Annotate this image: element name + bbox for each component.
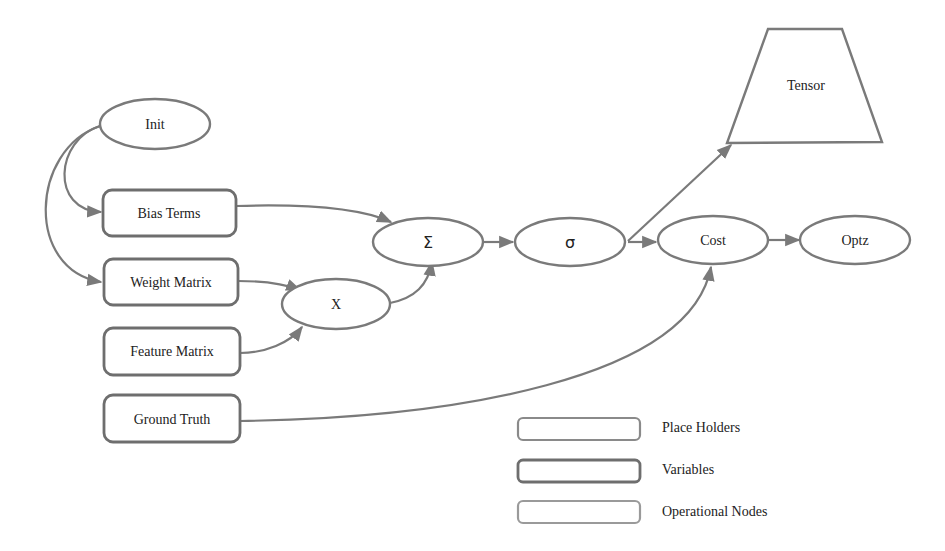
- node-sigmoid-label: σ: [565, 233, 575, 252]
- edge-weight-matrix-to-multiply: [238, 281, 300, 290]
- legend-swatch-placeholders: [518, 418, 640, 440]
- node-bias-terms-label: Bias Terms: [138, 206, 201, 221]
- edge-init-to-bias-terms: [64, 126, 101, 212]
- node-sum[interactable]: Σ: [373, 218, 483, 266]
- computation-graph-diagram: Init Bias Terms Weight Matrix Feature Ma…: [0, 0, 945, 551]
- node-weight-matrix-label: Weight Matrix: [130, 275, 212, 290]
- node-multiply[interactable]: X: [282, 279, 390, 329]
- node-feature-matrix-label: Feature Matrix: [130, 344, 214, 359]
- legend: Place Holders Variables Operational Node…: [518, 418, 767, 523]
- node-ground-truth[interactable]: Ground Truth: [104, 395, 240, 442]
- legend-label-operational-nodes: Operational Nodes: [662, 504, 767, 519]
- node-multiply-label: X: [331, 297, 341, 312]
- legend-swatch-operational-nodes: [518, 501, 640, 523]
- node-ground-truth-label: Ground Truth: [134, 412, 211, 427]
- legend-item-variables: Variables: [518, 460, 714, 482]
- node-optz[interactable]: Optz: [800, 216, 910, 264]
- node-cost[interactable]: Cost: [658, 216, 768, 264]
- node-init-label: Init: [145, 117, 165, 132]
- node-sum-label: Σ: [423, 233, 433, 252]
- legend-label-placeholders: Place Holders: [662, 420, 740, 435]
- node-cost-label: Cost: [700, 233, 726, 248]
- node-feature-matrix[interactable]: Feature Matrix: [104, 328, 240, 375]
- legend-item-placeholders: Place Holders: [518, 418, 740, 440]
- legend-label-variables: Variables: [662, 462, 714, 477]
- node-sigmoid[interactable]: σ: [515, 218, 625, 266]
- node-init[interactable]: Init: [100, 99, 210, 149]
- node-optz-label: Optz: [841, 233, 868, 248]
- node-tensor-label: Tensor: [787, 78, 825, 93]
- edge-bias-terms-to-sum: [236, 206, 391, 222]
- legend-item-operational-nodes: Operational Nodes: [518, 501, 767, 523]
- node-weight-matrix[interactable]: Weight Matrix: [104, 259, 238, 305]
- node-tensor[interactable]: Tensor: [727, 29, 882, 143]
- edge-feature-matrix-to-multiply: [240, 327, 302, 353]
- edge-multiply-to-sum: [390, 262, 432, 303]
- legend-swatch-variables: [518, 460, 640, 482]
- edge-init-to-weight-matrix: [46, 126, 101, 282]
- node-bias-terms[interactable]: Bias Terms: [103, 190, 236, 236]
